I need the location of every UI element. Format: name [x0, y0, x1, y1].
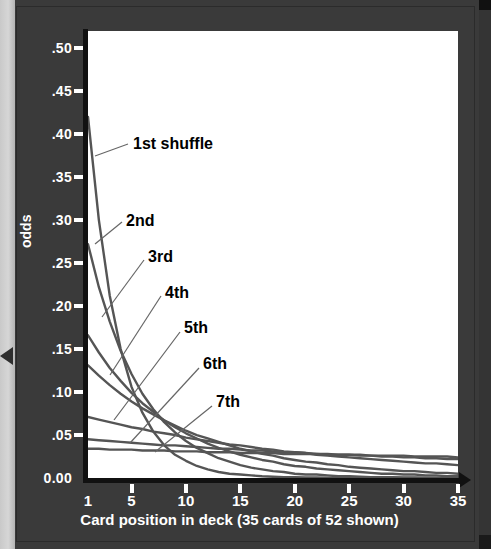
x-tick-label: 25 — [341, 492, 358, 509]
y-axis-line — [83, 29, 88, 482]
series-annotation-label: 3rd — [148, 248, 173, 266]
chart-screenshot: 0.00.05.10.15.20.25.30.35.40.45.50 15101… — [0, 0, 491, 549]
y-tick-label: .15 — [2, 341, 72, 357]
y-tick-mark — [74, 261, 83, 265]
y-tick-label: .40 — [2, 126, 72, 142]
x-axis-title: Card position in deck (35 cards of 52 sh… — [0, 511, 479, 528]
series-annotation-label: 6th — [203, 355, 227, 373]
top-right-corner-mark — [479, 0, 491, 10]
y-tick-mark — [74, 46, 83, 50]
x-tick-label: 10 — [178, 492, 195, 509]
x-tick-label: 15 — [232, 492, 249, 509]
x-tick-mark — [293, 484, 297, 493]
y-tick-mark — [74, 132, 83, 136]
bottom-right-corner-mark — [479, 535, 491, 549]
series-annotation-label: 2nd — [126, 212, 154, 230]
y-tick-mark — [74, 433, 83, 437]
y-tick-label: 0.00 — [2, 470, 72, 486]
y-axis-title: odds — [18, 215, 34, 248]
series-annotation-label: 5th — [184, 319, 208, 337]
y-tick-mark — [74, 304, 83, 308]
x-tick-mark — [456, 484, 460, 493]
y-tick-label: .30 — [2, 212, 72, 228]
y-tick-mark — [74, 347, 83, 351]
y-tick-mark — [74, 476, 83, 480]
y-tick-label: .45 — [2, 83, 72, 99]
x-tick-label: 1 — [84, 492, 92, 509]
series-annotation-label: 4th — [165, 284, 189, 302]
y-tick-mark — [74, 175, 83, 179]
x-tick-mark — [184, 484, 188, 493]
x-tick-label: 20 — [286, 492, 303, 509]
x-tick-label: 30 — [395, 492, 412, 509]
y-tick-mark — [74, 218, 83, 222]
x-tick-mark — [347, 484, 351, 493]
x-tick-mark — [238, 484, 242, 493]
y-tick-label: .50 — [2, 40, 72, 56]
y-tick-label: .20 — [2, 298, 72, 314]
y-tick-mark — [74, 390, 83, 394]
y-tick-label: .35 — [2, 169, 72, 185]
y-tick-mark — [74, 89, 83, 93]
y-tick-label: .25 — [2, 255, 72, 271]
x-axis-line — [83, 478, 461, 483]
x-tick-mark — [402, 484, 406, 493]
x-tick-label: 5 — [127, 492, 135, 509]
x-tick-mark — [130, 484, 134, 493]
y-tick-label: .10 — [2, 384, 72, 400]
y-tick-label: .05 — [2, 427, 72, 443]
series-annotation-label: 1st shuffle — [133, 135, 213, 153]
series-annotation-label: 7th — [216, 393, 240, 411]
right-margin — [479, 0, 491, 549]
x-tick-label: 35 — [450, 492, 467, 509]
x-axis-arrow-icon — [459, 472, 471, 488]
plot-area — [88, 31, 458, 478]
